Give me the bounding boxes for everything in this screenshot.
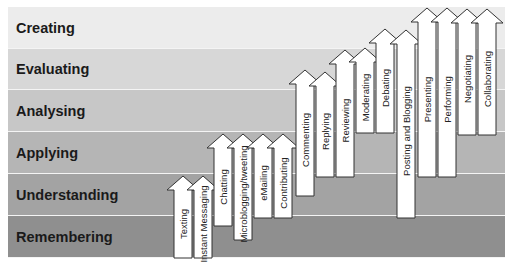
arrow-label: Collaborating bbox=[482, 51, 493, 107]
arrow-posting-and-blogging: Posting and Blogging bbox=[390, 30, 422, 218]
arrow-label: Reviewing bbox=[340, 99, 351, 143]
arrow-label: Microblogging/tweeting bbox=[238, 145, 249, 242]
arrow-label: Instant Messaging bbox=[198, 185, 209, 262]
arrow-label: Chatting bbox=[218, 169, 229, 204]
arrow-label: Posting and Blogging bbox=[401, 86, 412, 176]
arrow-label: Debating bbox=[380, 69, 391, 107]
arrow-label: Performing bbox=[442, 76, 453, 122]
arrow-label: Presenting bbox=[422, 77, 433, 122]
bloom-taxonomy-diagram: Creating Evaluating Analysing Applying U… bbox=[0, 0, 513, 267]
arrow-label: Commenting bbox=[300, 113, 311, 167]
activity-arrows: TextingInstant MessagingChattingMicroblo… bbox=[0, 0, 513, 267]
arrow-label: Replying bbox=[320, 113, 331, 150]
arrow-label: Negotiating bbox=[462, 55, 473, 103]
arrow-label: Texting bbox=[178, 209, 189, 239]
arrow-label: Contributing bbox=[278, 157, 289, 208]
arrow-label: Moderating bbox=[360, 74, 371, 122]
arrow-label: eMailing bbox=[258, 165, 269, 200]
